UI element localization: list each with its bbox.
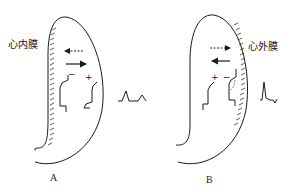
panel-b-heart-outline: [176, 15, 248, 164]
panel-b-minus-sign: −: [223, 73, 231, 82]
panel-b-caption: B: [206, 175, 213, 185]
panel-a-caption: A: [50, 173, 57, 183]
panel-a-endocardium-label: 心内膜: [8, 40, 38, 50]
panel-a-minus-sign: −: [68, 70, 76, 79]
panel-b-epicardium-label: 心外膜: [248, 42, 278, 52]
diagram-canvas: [0, 0, 292, 192]
panel-b-plus-sign: +: [211, 73, 219, 82]
panel-b-action-potential-endo: [203, 82, 214, 110]
panel-a-action-potential-epi: [84, 82, 97, 108]
panel-a-heart-outline: [35, 17, 103, 164]
panel-a-ecg-trace: [118, 91, 146, 101]
panel-a-action-potential-endo: [60, 75, 68, 112]
panel-a-endocardium-hatching: [48, 28, 56, 145]
panel-a-plus-sign: +: [85, 73, 93, 82]
panel-b-ecg-trace: [260, 82, 277, 103]
panel-b-action-potential-epi-dashed: [231, 80, 235, 90]
